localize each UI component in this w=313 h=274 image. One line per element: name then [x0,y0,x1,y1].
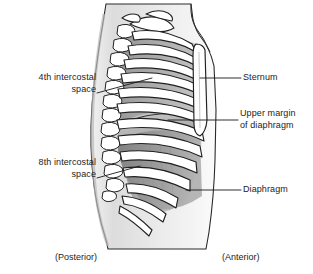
label-4th-intercostal-space: 4th intercostal space [4,72,96,95]
anatomy-figure: 4th intercostal space 8th intercostal sp… [0,0,313,274]
label-diaphragm: Diaphragm [243,184,313,196]
thorax-illustration [0,0,313,274]
caption-posterior: (Posterior) [55,252,97,263]
label-sternum: Sternum [243,72,313,84]
label-8th-intercostal-space: 8th intercostal space [4,157,96,180]
caption-anterior: (Anterior) [222,252,260,263]
sternum-bone [193,44,207,136]
label-upper-margin-of-diaphragm: Upper margin of diaphragm [240,108,313,131]
